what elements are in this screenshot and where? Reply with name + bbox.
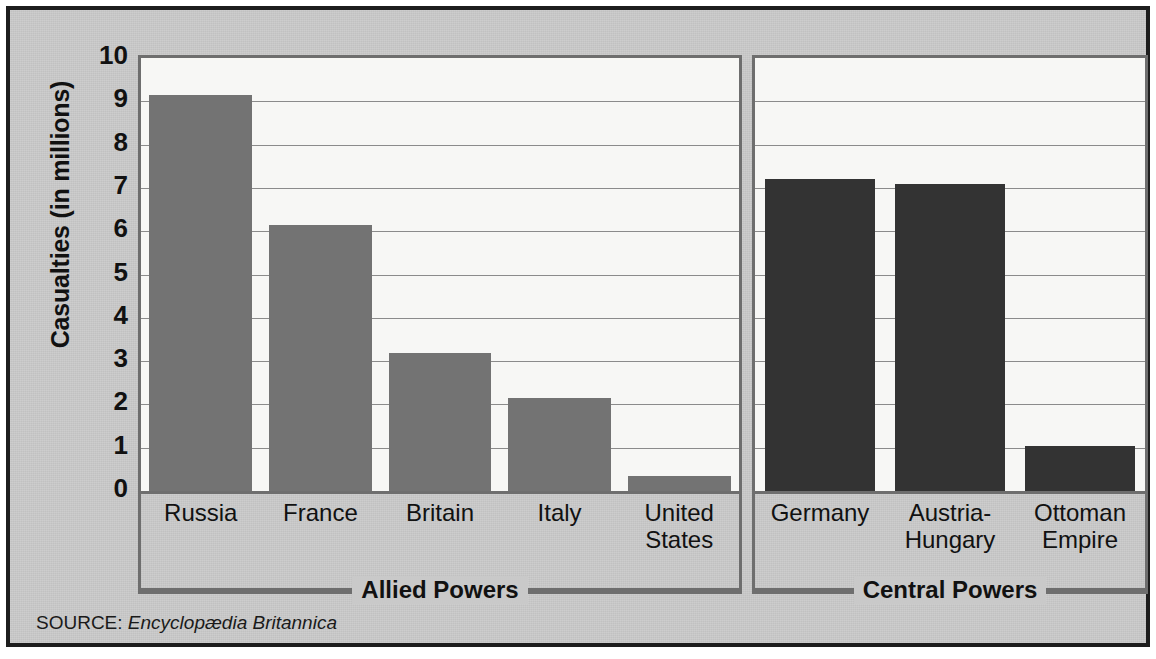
bar	[628, 476, 731, 491]
y-tick-label: 9	[114, 85, 128, 111]
category-label-line2: Empire	[1017, 527, 1143, 554]
category-label-line1: Britain	[406, 499, 474, 526]
category-box-allied: RussiaFranceBritainItalyUnitedStates All…	[138, 494, 742, 594]
category-label-line2: Hungary	[887, 527, 1013, 554]
category-label-line1: Austria-	[909, 499, 992, 526]
y-tick-label: 5	[114, 259, 128, 285]
category-label: Britain	[380, 500, 500, 554]
bar-slot	[500, 58, 620, 491]
category-box-central: GermanyAustria-HungaryOttomanEmpire Cent…	[752, 494, 1148, 594]
category-label: Italy	[500, 500, 620, 554]
chart-figure: Casualties (in millions) 109876543210 Ru…	[0, 0, 1156, 659]
caption-rule-left	[141, 588, 352, 592]
source-name: Encyclopædia Britannica	[128, 612, 337, 633]
category-label: OttomanEmpire	[1015, 500, 1145, 554]
bar	[269, 225, 372, 491]
y-axis-ticks: 109876543210	[88, 42, 128, 502]
category-labels-central: GermanyAustria-HungaryOttomanEmpire	[755, 500, 1145, 554]
category-label-line1: Germany	[771, 499, 870, 526]
bar-slot	[619, 58, 739, 491]
y-tick-label: 0	[114, 475, 128, 501]
chart-panel: Casualties (in millions) 109876543210 Ru…	[6, 6, 1150, 647]
bar-slot	[885, 58, 1015, 491]
category-labels-allied: RussiaFranceBritainItalyUnitedStates	[141, 500, 739, 554]
y-tick-label: 4	[114, 302, 128, 328]
group-caption-central: Central Powers	[755, 576, 1145, 604]
bar	[765, 179, 874, 491]
group-label-allied: Allied Powers	[352, 576, 527, 604]
y-tick-label: 8	[114, 129, 128, 155]
y-axis-title: Casualties (in millions)	[46, 5, 75, 425]
bar-slot	[261, 58, 381, 491]
bar-group-central	[755, 58, 1145, 491]
bar	[508, 398, 611, 491]
y-tick-label: 10	[99, 42, 128, 68]
bar	[895, 184, 1004, 491]
source-credit: SOURCE: Encyclopædia Britannica	[36, 612, 337, 634]
caption-rule-right	[1046, 588, 1145, 592]
category-label: Russia	[141, 500, 261, 554]
category-label-line1: United	[644, 499, 713, 526]
category-label-line1: Ottoman	[1034, 499, 1126, 526]
bar-slot	[1015, 58, 1145, 491]
bar-slot	[380, 58, 500, 491]
y-tick-label: 3	[114, 345, 128, 371]
category-label-line1: Italy	[538, 499, 582, 526]
plot-area-central	[752, 55, 1148, 494]
bar	[149, 95, 252, 491]
y-tick-label: 2	[114, 388, 128, 414]
caption-rule-right	[528, 588, 739, 592]
category-label: Germany	[755, 500, 885, 554]
bar-slot	[141, 58, 261, 491]
group-label-central: Central Powers	[854, 576, 1047, 604]
bar-group-allied	[141, 58, 739, 491]
y-tick-label: 1	[114, 432, 128, 458]
caption-rule-left	[755, 588, 854, 592]
category-label: UnitedStates	[619, 500, 739, 554]
y-tick-label: 7	[114, 172, 128, 198]
plot-area-allied	[138, 55, 742, 494]
category-label: France	[261, 500, 381, 554]
bar	[389, 353, 492, 491]
bar	[1025, 446, 1134, 491]
group-caption-allied: Allied Powers	[141, 576, 739, 604]
category-label-line2: States	[621, 527, 737, 554]
y-tick-label: 6	[114, 215, 128, 241]
category-label: Austria-Hungary	[885, 500, 1015, 554]
bar-slot	[755, 58, 885, 491]
category-label-line1: France	[283, 499, 358, 526]
source-prefix: SOURCE:	[36, 612, 123, 633]
category-label-line1: Russia	[164, 499, 237, 526]
